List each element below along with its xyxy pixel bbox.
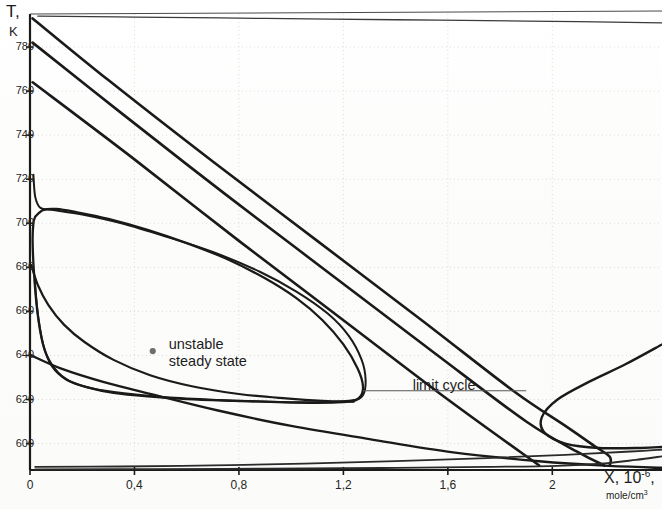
y-axis-label-main: T, (6, 2, 20, 22)
phase-plane-figure (0, 0, 662, 509)
x-tick-label-1,2: 1,2 (323, 478, 363, 492)
x-axis-label: X, 10-6, (604, 468, 655, 487)
curve-trajectory-return-top (38, 16, 662, 23)
curve-trajectory-third (33, 82, 540, 465)
x-axis-label-exponent: -6 (641, 468, 650, 479)
x-tick-label-0,8: 0,8 (219, 478, 259, 492)
x-tick-label-0: 0 (10, 478, 50, 492)
x-tick-label-0,4: 0,4 (114, 478, 154, 492)
y-tick-label-780: 780 (0, 40, 34, 52)
annotation-line-1: unstable (169, 336, 247, 353)
y-tick-label-660: 660 (0, 304, 34, 316)
curves-layer (31, 16, 662, 469)
y-tick-label-620: 620 (0, 393, 34, 405)
y-tick-label-740: 740 (0, 128, 34, 140)
curve-trajectory-right-turn (541, 344, 662, 448)
y-axis-label-unit: K (9, 24, 18, 39)
axis-line-top (30, 11, 662, 14)
x-axis-label-main: X, 10 (604, 469, 641, 486)
x-axis-unit-main: mole/cm (606, 490, 644, 501)
y-tick-label-700: 700 (0, 216, 34, 228)
y-tick-label-760: 760 (0, 84, 34, 96)
y-tick-label-680: 680 (0, 260, 34, 272)
curves-clipped-group (31, 16, 662, 469)
x-axis-unit-exponent: 3 (644, 489, 648, 496)
curve-trajectory-from-640 (31, 355, 662, 467)
annotation-unstable-steady-state: unstable steady state (169, 336, 247, 370)
annotation-marker-layer (150, 348, 156, 354)
y-tick-label-600: 600 (0, 437, 34, 449)
curve-trajectory-from-680 (31, 265, 354, 402)
y-tick-label-720: 720 (0, 172, 34, 184)
annotation-line-2: steady state (169, 353, 247, 370)
tick-marks-layer (26, 47, 552, 475)
x-axis-unit: mole/cm3 (606, 489, 648, 501)
y-tick-label-640: 640 (0, 348, 34, 360)
plot-svg (0, 0, 662, 509)
x-tick-label-2: 2 (532, 478, 572, 492)
annotation-limit-cycle: limit cycle (413, 377, 476, 393)
x-tick-label-1,6: 1,6 (428, 478, 468, 492)
unstable-steady-state-dot (150, 348, 156, 354)
curve-trajectory-outer-top (33, 18, 611, 465)
